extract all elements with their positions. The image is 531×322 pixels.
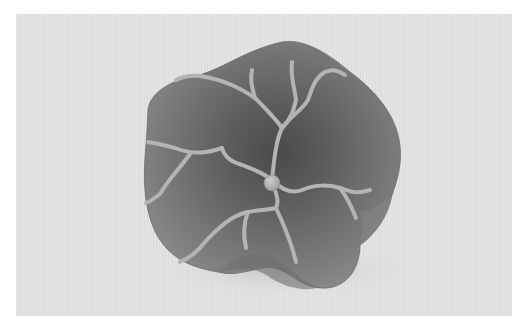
flower-center-bead [264,175,280,191]
photo-frame: Grayscale photograph of a sculpted clay … [16,14,512,316]
flower-photo [16,14,512,316]
